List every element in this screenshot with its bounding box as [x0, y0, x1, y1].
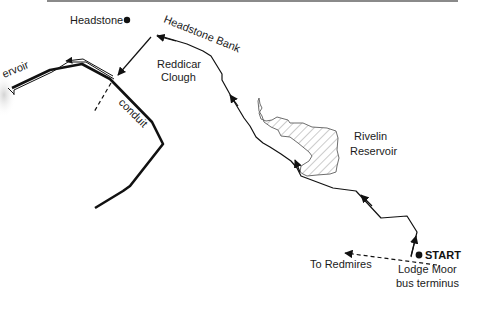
route-arrow-5 — [157, 36, 176, 41]
start-marker — [416, 252, 423, 259]
route-descent — [118, 37, 151, 75]
start-label: START — [425, 249, 461, 261]
route-arrow-4 — [230, 95, 238, 106]
rivelin-reservoir-shape — [258, 98, 339, 176]
conduit-line — [12, 64, 163, 208]
conduit-label: conduit — [117, 96, 151, 130]
headstone-label: Headstone — [70, 14, 123, 26]
headstone-marker — [124, 17, 130, 23]
reddicar-label-1: Reddicar — [157, 58, 201, 70]
route-map: Headstone Headstone Bank Reddicar Clough… — [0, 0, 478, 310]
reservoir-partial-label: ervoir — [0, 58, 30, 80]
rivelin-label-1: Rivelin — [354, 130, 387, 142]
route-arrow-start — [411, 236, 416, 256]
lodge-moor-label-1: Lodge Moor — [398, 263, 457, 275]
headstone-bank-label: Headstone Bank — [162, 13, 242, 55]
to-redmires-label: To Redmires — [310, 258, 372, 270]
dashed-crossing — [94, 83, 111, 112]
lodge-moor-label-2: bus terminus — [396, 277, 459, 289]
rivelin-label-2: Reservoir — [350, 145, 397, 157]
reddicar-label-2: Clough — [161, 71, 196, 83]
route-arrow-2 — [361, 195, 372, 206]
